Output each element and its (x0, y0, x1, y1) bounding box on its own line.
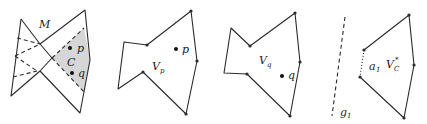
point-p (174, 47, 178, 51)
label-q: q (78, 67, 85, 80)
vertex (293, 11, 296, 14)
vertex (402, 116, 405, 119)
hidden-edge (15, 56, 37, 71)
label-vp-sub: p (160, 67, 165, 75)
vertex (407, 13, 410, 16)
panel-4: g 1 a 1 V C * (332, 13, 416, 120)
vertex (362, 48, 365, 51)
hidden-edge (15, 44, 40, 56)
vertex (298, 60, 301, 63)
vertex (195, 59, 198, 62)
label-vc-sup: * (395, 56, 399, 64)
diagram-svg: M p C q p V p q V q g 1 (0, 0, 427, 124)
line-g1 (332, 17, 345, 116)
label-a: a (369, 60, 376, 73)
diagram-stage: M p C q p V p q V q g 1 (0, 0, 427, 124)
manifold-edge (40, 44, 52, 58)
label-q: q (288, 69, 295, 82)
label-g: g (340, 106, 347, 119)
label-vc-sub: C (394, 65, 400, 73)
vertex (248, 44, 251, 47)
label-manifold: M (38, 18, 51, 31)
point-p (68, 46, 72, 50)
vertex (145, 43, 148, 46)
manifold-edge (40, 58, 52, 71)
vertex (412, 63, 415, 66)
vertex (288, 114, 291, 117)
vertex (184, 112, 187, 115)
vertex (141, 70, 144, 73)
label-a-sub: 1 (376, 66, 380, 74)
vertex (189, 9, 192, 12)
vertex (245, 72, 248, 75)
panel-2: p V p (118, 9, 199, 115)
label-p: p (182, 43, 189, 56)
label-vq-sub: q (267, 61, 272, 69)
edge-a1 (360, 50, 364, 77)
point-q (280, 74, 284, 78)
vertex (358, 75, 361, 78)
panel-1: M p C q (11, 10, 90, 113)
manifold-left-edge (11, 19, 40, 96)
label-region-c: C (67, 56, 76, 69)
point-q (70, 71, 74, 75)
label-g-sub: 1 (347, 112, 351, 120)
label-p: p (77, 42, 84, 55)
panel-3: q V q (224, 11, 302, 117)
